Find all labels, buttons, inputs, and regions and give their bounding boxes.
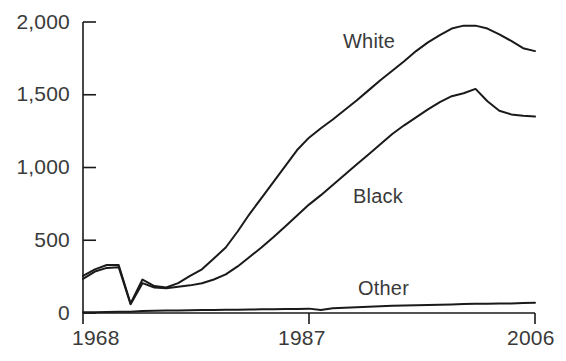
- series-label-black: Black: [353, 185, 403, 208]
- chart-container: 2,000 1,500 1,000 500 0 1968 1987 2006 W…: [0, 0, 566, 361]
- chart-axes: [83, 22, 535, 324]
- chart-series-lines: [83, 26, 535, 313]
- series-line-other: [83, 303, 535, 312]
- y-tick-label-1000: 1,000: [0, 155, 70, 179]
- series-line-white: [83, 26, 535, 304]
- series-label-white: White: [343, 30, 395, 53]
- x-tick-label-1987: 1987: [278, 326, 326, 350]
- x-tick-label-2006: 2006: [507, 326, 555, 350]
- y-tick-label-1500: 1,500: [0, 82, 70, 106]
- y-tick-label-0: 0: [0, 301, 70, 325]
- chart-plot-area: [0, 0, 566, 361]
- series-line-black: [83, 89, 535, 304]
- y-tick-label-500: 500: [0, 228, 70, 252]
- x-tick-label-1968: 1968: [72, 326, 120, 350]
- y-tick-label-2000: 2,000: [0, 10, 70, 34]
- series-label-other: Other: [358, 277, 409, 300]
